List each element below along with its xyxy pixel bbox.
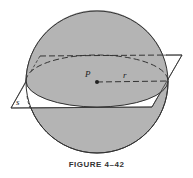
sphere-plane-figure: P r s FIGURE 4–42 xyxy=(0,0,193,178)
center-point-p xyxy=(95,80,99,84)
figure-caption: FIGURE 4–42 xyxy=(0,160,193,169)
label-p: P xyxy=(84,69,91,79)
label-r: r xyxy=(123,70,127,80)
diagram-canvas: P r s xyxy=(0,0,193,178)
label-s: s xyxy=(16,97,20,107)
